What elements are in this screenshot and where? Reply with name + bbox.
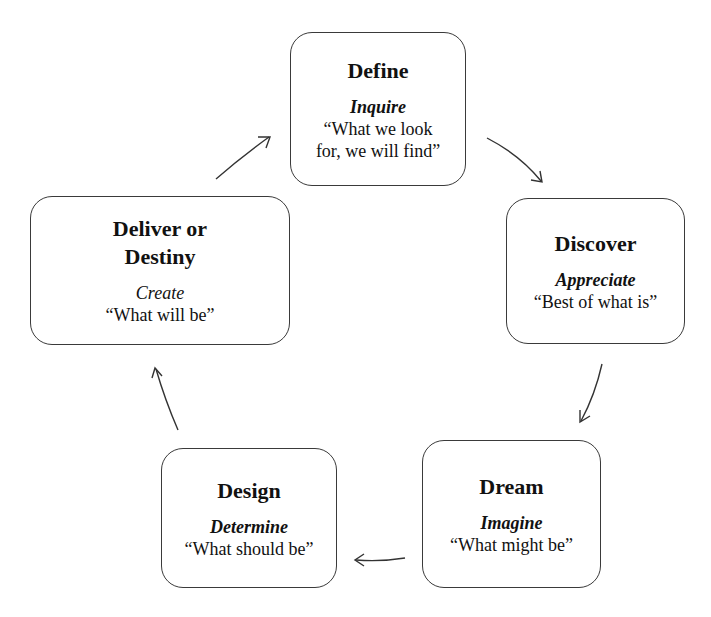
stage-box-discover: Discover Appreciate “Best of what is” [506, 198, 685, 344]
stage-box-dream: Dream Imagine “What might be” [422, 440, 601, 588]
stage-title-deliver-line1: Deliver or [113, 215, 207, 243]
stage-title-discover: Discover [555, 230, 637, 258]
arrow-design-to-deliver-icon [152, 368, 178, 430]
stage-box-define: Define Inquire “What we look for, we wil… [290, 32, 466, 186]
arrow-define-to-discover-icon [487, 138, 542, 182]
stage-quote-deliver: “What will be” [106, 304, 215, 326]
stage-title-define: Define [347, 57, 408, 85]
stage-quote-define-line1: “What we look [324, 118, 433, 140]
stage-verb-define: Inquire [350, 97, 406, 118]
stage-title-design: Design [217, 477, 281, 505]
stage-quote-dream: “What might be” [450, 534, 573, 556]
arrow-dream-to-design-icon [355, 554, 405, 566]
stage-verb-discover: Appreciate [556, 270, 636, 291]
stage-quote-define-line2: for, we will find” [316, 140, 440, 162]
stage-box-deliver: Deliver or Destiny Create “What will be” [30, 196, 290, 345]
stage-verb-design: Determine [210, 517, 288, 538]
stage-title-deliver-line2: Destiny [125, 243, 196, 271]
stage-verb-deliver: Create [136, 283, 184, 304]
stage-quote-design: “What should be” [185, 538, 314, 560]
stage-quote-discover: “Best of what is” [534, 291, 657, 313]
arrow-discover-to-dream-icon [580, 364, 602, 422]
arrow-deliver-to-define-icon [216, 137, 270, 179]
appreciative-inquiry-cycle-diagram: Define Inquire “What we look for, we wil… [0, 0, 711, 617]
stage-title-dream: Dream [479, 473, 543, 501]
stage-box-design: Design Determine “What should be” [161, 448, 337, 588]
stage-verb-dream: Imagine [480, 513, 542, 534]
